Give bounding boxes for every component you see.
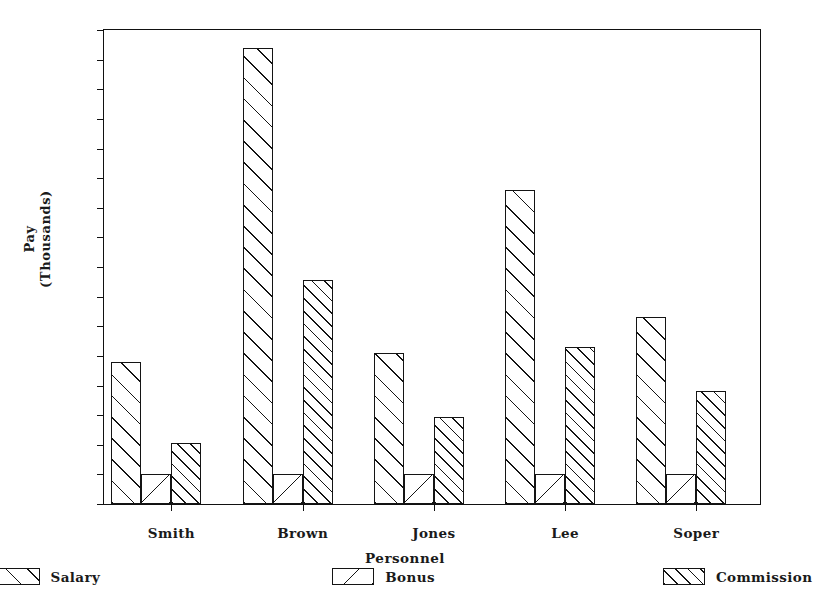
y-tick (97, 60, 104, 61)
legend-swatch-bonus (332, 568, 374, 585)
x-category-label-soper: Soper (636, 525, 756, 541)
bar-salary-jones (374, 353, 404, 504)
bar-commission-brown (303, 280, 333, 504)
y-tick (97, 386, 104, 387)
chart-legend: SalaryBonusCommission (0, 568, 810, 585)
y-tick (97, 445, 104, 446)
legend-item-commission[interactable]: Commission (663, 568, 813, 585)
plot-area: 012345678910111213141516 SmithBrownJones… (103, 29, 761, 505)
x-tick (171, 504, 172, 511)
legend-swatch-commission (663, 568, 705, 585)
y-tick (97, 356, 104, 357)
y-tick (97, 89, 104, 90)
y-axis-title-line-2: (Thousands) (38, 190, 54, 288)
x-tick (696, 504, 697, 511)
y-tick (97, 267, 104, 268)
y-tick (97, 237, 104, 238)
bar-salary-soper (636, 317, 666, 504)
legend-label-bonus: Bonus (385, 569, 435, 585)
bar-commission-smith (171, 443, 201, 504)
y-tick (97, 415, 104, 416)
y-axis-title-line-1: Pay (22, 225, 38, 252)
x-tick (303, 504, 304, 511)
x-axis-title: Personnel (0, 550, 810, 566)
x-category-label-smith: Smith (111, 525, 231, 541)
bar-bonus-soper (666, 474, 696, 504)
bar-salary-smith (111, 362, 141, 504)
y-tick (97, 297, 104, 298)
x-tick (434, 504, 435, 511)
bar-salary-lee (505, 190, 535, 504)
y-tick (97, 30, 104, 31)
bar-commission-jones (434, 417, 464, 504)
y-tick (97, 119, 104, 120)
legend-label-salary: Salary (51, 569, 101, 585)
bar-salary-brown (243, 48, 273, 504)
y-tick (97, 474, 104, 475)
legend-item-salary[interactable]: Salary (0, 568, 100, 585)
bar-bonus-brown (273, 474, 303, 504)
y-tick (97, 504, 104, 505)
bar-bonus-jones (404, 474, 434, 504)
y-tick (97, 326, 104, 327)
x-category-label-brown: Brown (243, 525, 363, 541)
x-tick (565, 504, 566, 511)
bar-bonus-lee (535, 474, 565, 504)
legend-item-bonus[interactable]: Bonus (332, 568, 435, 585)
y-tick (97, 178, 104, 179)
x-category-label-jones: Jones (374, 525, 494, 541)
y-tick (97, 149, 104, 150)
x-category-label-lee: Lee (505, 525, 625, 541)
bar-bonus-smith (141, 474, 171, 504)
bar-commission-lee (565, 347, 595, 504)
bar-commission-soper (696, 391, 726, 504)
y-tick (97, 208, 104, 209)
y-axis-title: Pay (Thousands) (15, 159, 61, 319)
legend-label-commission: Commission (716, 569, 813, 585)
legend-swatch-salary (0, 568, 40, 585)
